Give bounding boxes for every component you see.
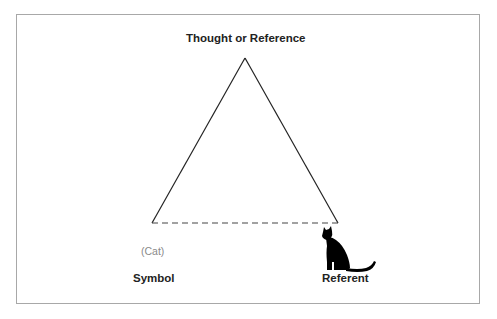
triangle-diagram xyxy=(0,0,497,319)
referent-label: Referent xyxy=(322,272,369,284)
edge-apex-left xyxy=(152,58,245,223)
symbol-example: (Cat) xyxy=(141,245,164,257)
edge-apex-right xyxy=(245,58,338,223)
cat-silhouette-icon xyxy=(322,226,376,272)
symbol-label: Symbol xyxy=(133,272,175,284)
